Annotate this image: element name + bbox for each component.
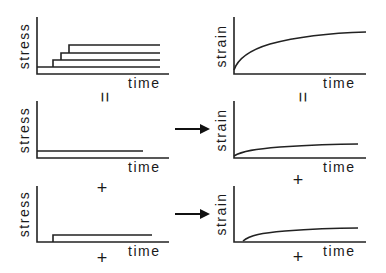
stress-step-3 <box>69 45 160 53</box>
stress-line <box>53 235 152 242</box>
strain-curve <box>234 32 366 70</box>
y-axis-label: strain <box>213 192 229 235</box>
panel-stress-step-2: stress time <box>16 186 169 259</box>
panel-stress-step-1: stress time <box>16 101 169 175</box>
plus-symbol-right-bottom: + <box>293 247 304 267</box>
y-axis <box>234 17 366 74</box>
strain-curve <box>243 228 358 241</box>
stress-step-2 <box>61 53 160 60</box>
y-axis <box>37 101 169 158</box>
equals-symbol-right: = <box>293 92 313 103</box>
y-axis-label: strain <box>213 108 229 151</box>
y-axis-label: stress <box>16 191 32 237</box>
x-axis-label: time <box>128 159 160 175</box>
x-axis-label: time <box>323 243 355 259</box>
y-axis-label: strain <box>213 24 229 67</box>
y-axis <box>234 186 366 242</box>
x-axis-label: time <box>128 75 160 91</box>
equals-symbol-left: = <box>95 92 115 103</box>
x-axis-label: time <box>323 159 355 175</box>
y-axis-label: stress <box>16 23 32 69</box>
plus-symbol-right-top: + <box>293 170 304 190</box>
panel-stress-stepped: stress time <box>16 17 169 91</box>
strain-curve <box>234 144 358 156</box>
x-axis-label: time <box>323 75 355 91</box>
panel-strain-response-1: strain time <box>213 101 366 175</box>
panel-strain-response-2: strain time <box>213 186 366 259</box>
panel-strain-total: strain time <box>213 17 366 91</box>
x-axis-label: time <box>128 243 160 259</box>
superposition-diagram: stress time strain time = = stress time … <box>0 0 386 273</box>
plus-symbol-left-bottom: + <box>97 248 108 268</box>
y-axis-label: stress <box>16 107 32 153</box>
stress-step-1 <box>53 60 160 67</box>
plus-symbol-left-top: + <box>97 178 108 198</box>
